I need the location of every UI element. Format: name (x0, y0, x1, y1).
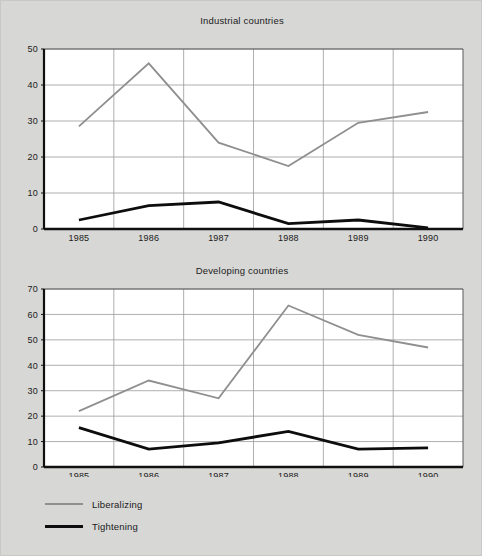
y-tick-label: 30 (28, 116, 38, 126)
y-tick-label: 10 (28, 188, 38, 198)
legend-item-liberalizing: Liberalizing (45, 493, 345, 515)
y-tick-label: 0 (33, 462, 38, 472)
legend-label-tightening: Tightening (92, 521, 138, 532)
chart-legend: Liberalizing Tightening (45, 493, 345, 537)
y-tick-label: 0 (33, 224, 38, 234)
chart-panel-developing: Developing countries 0102030405060701985… (1, 259, 482, 477)
legend-label-liberalizing: Liberalizing (92, 499, 142, 510)
x-tick-label: 1985 (69, 471, 90, 477)
y-tick-label: 70 (28, 284, 38, 294)
line-swatch-black-icon (45, 525, 83, 528)
chart-panel-industrial: Industrial countries 0102030405019851986… (1, 1, 482, 259)
chart-figure: Industrial countries 0102030405019851986… (0, 0, 482, 556)
x-tick-label: 1987 (208, 471, 229, 477)
x-tick-label: 1988 (278, 471, 299, 477)
plot-area-developing: 010203040506070198519861987198819891990 (1, 259, 482, 477)
x-tick-label: 1985 (69, 233, 90, 243)
y-tick-label: 20 (28, 411, 38, 421)
line-swatch-gray-icon (45, 503, 83, 505)
x-tick-label: 1989 (348, 471, 369, 477)
y-tick-label: 50 (28, 335, 38, 345)
y-tick-label: 50 (28, 44, 38, 54)
x-tick-label: 1990 (418, 471, 439, 477)
y-tick-label: 40 (28, 80, 38, 90)
x-tick-label: 1986 (138, 471, 159, 477)
x-tick-label: 1988 (278, 233, 299, 243)
y-tick-label: 60 (28, 310, 38, 320)
y-tick-label: 20 (28, 152, 38, 162)
y-tick-label: 10 (28, 437, 38, 447)
x-tick-label: 1989 (348, 233, 369, 243)
x-tick-label: 1987 (208, 233, 229, 243)
y-tick-label: 40 (28, 361, 38, 371)
legend-item-tightening: Tightening (45, 515, 345, 537)
x-tick-label: 1990 (418, 233, 439, 243)
plot-area-industrial: 01020304050198519861987198819891990 (1, 1, 482, 259)
x-tick-label: 1986 (138, 233, 159, 243)
y-tick-label: 30 (28, 386, 38, 396)
